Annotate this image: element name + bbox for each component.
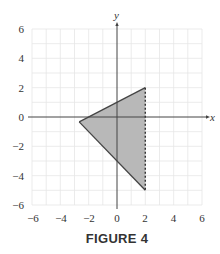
y-axis-arrow-icon xyxy=(115,22,118,26)
y-tick: −2 xyxy=(12,140,24,152)
x-tick: 6 xyxy=(199,212,205,224)
x-tick: 0 xyxy=(114,212,120,224)
x-tick: −4 xyxy=(55,212,67,224)
y-axis-label: y xyxy=(113,9,119,21)
x-axis-label: x xyxy=(209,111,215,123)
chart-canvas: y x 6 4 2 0 −2 −4 −6 −6 −4 −2 0 2 4 6 FI… xyxy=(0,0,220,254)
y-tick: 0 xyxy=(19,111,25,123)
x-tick: 4 xyxy=(171,212,177,224)
y-tick-labels: 6 4 2 0 −2 −4 −6 xyxy=(12,23,24,211)
x-tick: −2 xyxy=(83,212,95,224)
shaded-region xyxy=(79,88,145,191)
y-tick: 4 xyxy=(19,52,25,64)
y-tick: 6 xyxy=(19,23,25,35)
x-tick-labels: −6 −4 −2 0 2 4 6 xyxy=(27,212,205,224)
y-tick: −4 xyxy=(12,170,24,182)
x-tick: 2 xyxy=(142,212,148,224)
figure-caption: FIGURE 4 xyxy=(86,231,149,246)
x-tick: −6 xyxy=(27,212,39,224)
y-tick: −6 xyxy=(12,199,24,211)
y-tick: 2 xyxy=(19,82,25,94)
